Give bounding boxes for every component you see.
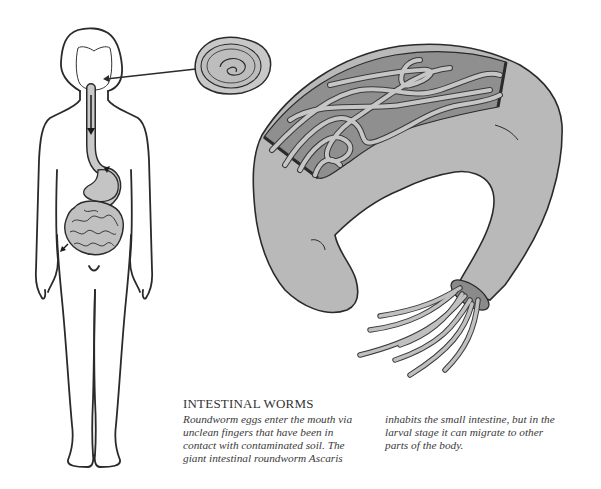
caption-line: Roundworm eggs enter the mouth via <box>183 413 378 426</box>
caption-text-left: Roundworm eggs enter the mouth via uncle… <box>183 413 378 465</box>
digestive-tract <box>60 88 123 255</box>
cutaway-intestine <box>253 44 562 375</box>
caption-line: parts of the body. <box>385 439 585 452</box>
caption-line: inhabits the small intestine, but in the <box>385 413 585 426</box>
egg-pointer-arrow <box>103 69 196 82</box>
caption-line: larval stage it can migrate to other <box>385 426 585 439</box>
caption-line: unclean fingers that have been in <box>183 426 378 439</box>
caption-line: contact with contaminated soil. The <box>183 439 378 452</box>
caption-title: INTESTINAL WORMS <box>183 396 314 412</box>
caption-line: giant intestinal roundworm Ascaris <box>183 452 378 465</box>
roundworm-egg <box>195 37 271 94</box>
face-outline <box>76 47 111 90</box>
caption-text-right: inhabits the small intestine, but in the… <box>385 413 585 452</box>
